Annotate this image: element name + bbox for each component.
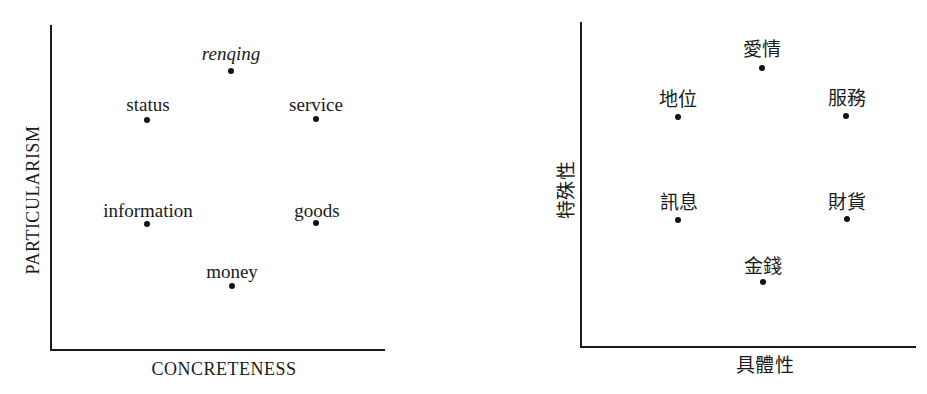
point-marker-money-zh — [760, 279, 766, 285]
point-marker-service-zh — [843, 113, 849, 119]
point-marker-status-zh — [675, 114, 681, 120]
left-x-axis — [50, 349, 385, 351]
point-marker-information-zh — [675, 217, 681, 223]
point-marker-information — [144, 221, 150, 227]
point-label-money-zh: 金錢 — [744, 257, 782, 276]
right-x-axis-title: 具體性 — [736, 356, 795, 375]
point-label-money: money — [206, 262, 258, 281]
point-marker-renqing — [228, 68, 234, 74]
point-marker-goods-zh — [844, 216, 850, 222]
point-marker-money — [229, 283, 235, 289]
point-label-goods-zh: 財貨 — [828, 193, 866, 212]
right-y-axis-title: 特殊性 — [557, 161, 576, 220]
left-y-axis-title: PARTICULARISM — [24, 126, 42, 275]
point-label-service-zh: 服務 — [828, 89, 866, 108]
right-x-axis — [580, 346, 916, 348]
point-label-renqing: renqing — [202, 44, 260, 63]
point-label-information-zh: 訊息 — [660, 193, 698, 212]
point-label-status: status — [126, 95, 169, 114]
left-x-axis-title: CONCRETENESS — [151, 360, 296, 378]
point-label-status-zh: 地位 — [659, 90, 697, 109]
point-label-love: 愛情 — [743, 40, 781, 59]
point-marker-goods — [313, 220, 319, 226]
point-label-service: service — [289, 95, 343, 114]
point-label-information: information — [103, 201, 193, 220]
right-y-axis — [580, 22, 582, 348]
point-marker-service — [313, 116, 319, 122]
point-label-goods: goods — [294, 201, 339, 220]
point-marker-love — [759, 65, 765, 71]
left-y-axis — [50, 25, 52, 351]
point-marker-status — [144, 117, 150, 123]
